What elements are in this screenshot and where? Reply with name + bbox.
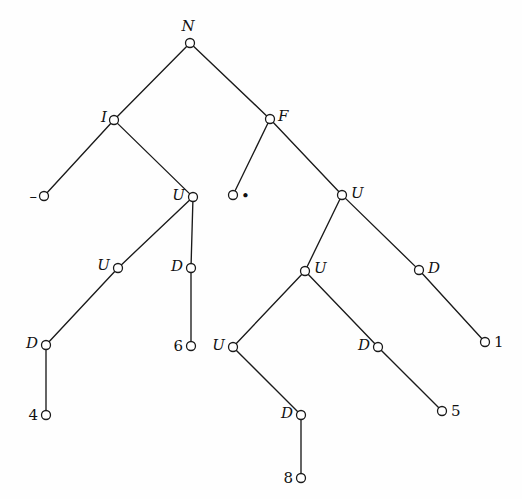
tree-node-label-n0: N (181, 19, 194, 34)
tree-node-label-n3: – (30, 189, 38, 204)
tree-edge (121, 200, 189, 265)
tree-edge (307, 199, 340, 267)
tree-node-label-n11: D (26, 336, 38, 351)
tree-diagram-figure: NIF–U•UUDUDD6UD14D58 (0, 0, 522, 499)
tree-edge (49, 271, 115, 341)
tree-edge (422, 273, 482, 338)
tree-node-n7[interactable] (114, 264, 123, 273)
tree-edge (193, 46, 266, 116)
tree-edge (235, 123, 268, 191)
tree-node-label-n6: U (351, 186, 364, 201)
tree-edge (191, 201, 193, 263)
tree-svg-canvas (0, 0, 522, 499)
tree-node-label-n7: U (97, 258, 110, 273)
tree-edge (381, 350, 439, 408)
tree-node-n19[interactable] (297, 474, 306, 483)
tree-node-label-n14: D (358, 338, 370, 353)
tree-node-label-n1: I (101, 110, 107, 125)
tree-edge (308, 274, 375, 344)
tree-node-n18[interactable] (438, 407, 447, 416)
tree-node-label-n15: 1 (494, 335, 504, 350)
tree-node-n11[interactable] (42, 341, 51, 350)
edge-layer (46, 46, 482, 473)
tree-node-n14[interactable] (374, 343, 383, 352)
tree-node-label-n5: • (241, 189, 250, 204)
tree-edge (273, 122, 339, 191)
tree-node-label-n16: 4 (28, 408, 38, 423)
tree-node-label-n10: D (428, 261, 440, 276)
tree-node-n15[interactable] (481, 338, 490, 347)
tree-node-n4[interactable] (189, 193, 198, 202)
tree-node-n10[interactable] (415, 266, 424, 275)
tree-node-label-n8: D (171, 259, 183, 274)
tree-node-n8[interactable] (187, 264, 196, 273)
tree-edge (117, 123, 190, 194)
tree-node-n12[interactable] (187, 342, 196, 351)
tree-node-label-n2: F (278, 109, 288, 124)
tree-node-n16[interactable] (42, 411, 51, 420)
tree-node-label-n12: 6 (173, 339, 183, 354)
tree-edge (117, 46, 187, 117)
tree-node-n5[interactable] (229, 191, 238, 200)
tree-node-label-n4: U (172, 188, 185, 203)
tree-node-n1[interactable] (110, 116, 119, 125)
tree-node-label-n18: 5 (451, 404, 461, 419)
tree-node-label-n17: D (281, 406, 293, 421)
tree-node-n0[interactable] (186, 39, 195, 48)
tree-node-n13[interactable] (229, 343, 238, 352)
tree-node-label-n19: 8 (283, 471, 293, 486)
tree-node-n3[interactable] (40, 192, 49, 201)
tree-edge (47, 123, 111, 192)
tree-node-n2[interactable] (266, 115, 275, 124)
tree-node-n6[interactable] (338, 191, 347, 200)
tree-node-n9[interactable] (301, 267, 310, 276)
tree-node-n17[interactable] (297, 411, 306, 420)
tree-edge (236, 274, 302, 343)
tree-node-label-n13: U (212, 338, 225, 353)
tree-edge (345, 198, 416, 267)
tree-node-label-n9: U (314, 261, 327, 276)
